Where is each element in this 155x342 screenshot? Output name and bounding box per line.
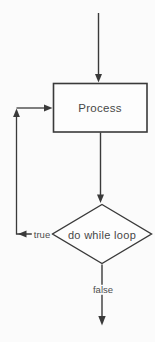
false-branch-label: false bbox=[91, 285, 115, 295]
true-branch-label: true bbox=[32, 230, 52, 240]
process-to-decision-arrow bbox=[97, 133, 104, 204]
entry-arrow bbox=[95, 13, 102, 83]
flowchart-canvas: Process do while loop true false bbox=[0, 0, 155, 342]
process-node bbox=[54, 84, 148, 133]
decision-node bbox=[53, 205, 152, 264]
flowchart-graphic bbox=[0, 0, 155, 342]
arrow-up-icon bbox=[13, 109, 20, 118]
arrow-down-icon bbox=[95, 74, 102, 83]
arrow-down-icon bbox=[98, 316, 105, 326]
arrow-down-icon bbox=[97, 195, 104, 204]
loop-back-arrow bbox=[13, 105, 52, 238]
arrow-right-icon bbox=[44, 105, 53, 112]
arrow-left-icon bbox=[18, 231, 27, 238]
